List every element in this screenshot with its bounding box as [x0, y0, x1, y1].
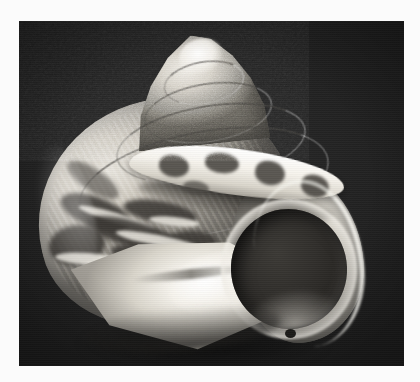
page-root — [0, 0, 420, 382]
shell-specimen — [19, 21, 404, 366]
siphonal-notch — [285, 329, 296, 338]
shell-photograph — [19, 21, 404, 366]
